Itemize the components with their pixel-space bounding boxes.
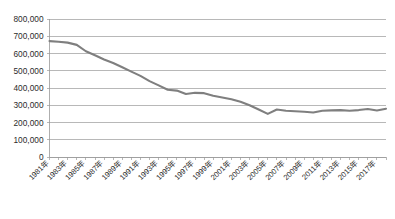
x-tick-label: 2017年 (354, 157, 379, 182)
y-tick-label: 500,000 (14, 66, 44, 76)
y-tick-label: 800,000 (14, 14, 44, 24)
x-axis-tick-labels: 1981年1983年1985年1987年1989年1991年1993年1995年… (26, 157, 378, 182)
y-tick-label: 600,000 (14, 49, 44, 59)
series-line (50, 41, 387, 114)
y-tick-label: 400,000 (14, 83, 44, 93)
y-tick-label: 300,000 (14, 100, 44, 110)
y-tick-label: 100,000 (14, 135, 44, 145)
y-tick-label: 700,000 (14, 31, 44, 41)
gridlines-group (47, 19, 387, 157)
y-tick-label: 200,000 (14, 118, 44, 128)
data-series-group (50, 41, 387, 114)
y-axis-tick-labels: 0100,000200,000300,000400,000500,000600,… (14, 14, 44, 162)
line-chart: 0100,000200,000300,000400,000500,000600,… (0, 0, 395, 219)
chart-canvas: 0100,000200,000300,000400,000500,000600,… (0, 0, 395, 219)
